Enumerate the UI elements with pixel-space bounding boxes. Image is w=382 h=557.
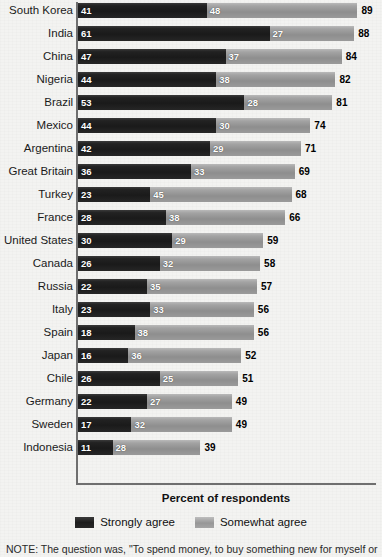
bar-segment-somewhat-agree: 27 xyxy=(270,26,355,41)
bar-segment-strongly-agree: 26 xyxy=(78,371,160,386)
bar-value-strongly-agree: 53 xyxy=(81,95,92,110)
bar-value-strongly-agree: 61 xyxy=(81,26,92,41)
bar-value-somewhat-agree: 45 xyxy=(153,187,164,202)
bar-value-strongly-agree: 41 xyxy=(81,3,92,18)
bar-group: 1732 xyxy=(78,417,232,432)
bar-value-strongly-agree: 42 xyxy=(81,141,92,156)
bar-group: 2345 xyxy=(78,187,292,202)
bar-group: 4430 xyxy=(78,118,310,133)
bar-group: 1636 xyxy=(78,348,241,363)
bar-segment-somewhat-agree: 38 xyxy=(135,325,254,340)
chart-note: NOTE: The question was, "To spend money,… xyxy=(6,543,378,556)
bar-segment-somewhat-agree: 38 xyxy=(166,210,285,225)
category-label: United States xyxy=(0,232,73,249)
bar-value-somewhat-agree: 28 xyxy=(247,95,258,110)
bar-total-label: 81 xyxy=(336,95,347,110)
bar-segment-strongly-agree: 17 xyxy=(78,417,131,432)
bar-segment-somewhat-agree: 37 xyxy=(226,49,342,64)
bar-group: 2632 xyxy=(78,256,260,271)
bar-group: 4438 xyxy=(78,72,335,87)
plot-area: South Korea414889India612788China473784N… xyxy=(0,2,382,462)
bar-value-strongly-agree: 26 xyxy=(81,371,92,386)
bar-total-label: 74 xyxy=(314,118,325,133)
bar-segment-strongly-agree: 22 xyxy=(78,279,147,294)
bar-value-somewhat-agree: 35 xyxy=(150,279,161,294)
bar-row: Great Britain363369 xyxy=(0,163,382,186)
bar-segment-strongly-agree: 30 xyxy=(78,233,172,248)
bar-value-strongly-agree: 36 xyxy=(81,164,92,179)
bar-row: Germany222749 xyxy=(0,393,382,416)
bar-row: United States302959 xyxy=(0,232,382,255)
bar-value-strongly-agree: 44 xyxy=(81,118,92,133)
bar-value-strongly-agree: 18 xyxy=(81,325,92,340)
category-label: India xyxy=(0,25,73,42)
category-label: Japan xyxy=(0,347,73,364)
bar-value-somewhat-agree: 33 xyxy=(153,302,164,317)
category-label: Spain xyxy=(0,324,73,341)
bar-value-somewhat-agree: 32 xyxy=(163,256,174,271)
bar-row: Mexico443074 xyxy=(0,117,382,140)
stacked-bar-chart: South Korea414889India612788China473784N… xyxy=(0,0,382,557)
legend-label-somewhat-agree: Somewhat agree xyxy=(220,516,307,528)
bar-row: Russia223557 xyxy=(0,278,382,301)
bar-group: 3029 xyxy=(78,233,263,248)
bar-group: 5328 xyxy=(78,95,332,110)
bar-row: Nigeria443882 xyxy=(0,71,382,94)
bar-group: 2235 xyxy=(78,279,257,294)
category-label: Russia xyxy=(0,278,73,295)
bar-group: 6127 xyxy=(78,26,354,41)
bar-segment-strongly-agree: 36 xyxy=(78,164,191,179)
bar-row: France283866 xyxy=(0,209,382,232)
bar-total-label: 89 xyxy=(361,3,372,18)
bar-segment-strongly-agree: 44 xyxy=(78,72,216,87)
bar-segment-somewhat-agree: 29 xyxy=(172,233,263,248)
bar-segment-strongly-agree: 23 xyxy=(78,302,150,317)
bar-total-label: 84 xyxy=(346,49,357,64)
bar-value-somewhat-agree: 38 xyxy=(138,325,149,340)
bar-segment-strongly-agree: 16 xyxy=(78,348,128,363)
bar-value-strongly-agree: 22 xyxy=(81,394,92,409)
bar-value-somewhat-agree: 29 xyxy=(175,233,186,248)
bar-row: South Korea414889 xyxy=(0,2,382,25)
bar-value-somewhat-agree: 38 xyxy=(169,210,180,225)
bar-segment-somewhat-agree: 25 xyxy=(160,371,239,386)
bar-value-somewhat-agree: 27 xyxy=(273,26,284,41)
bar-total-label: 71 xyxy=(305,141,316,156)
bar-total-label: 59 xyxy=(267,233,278,248)
bar-segment-somewhat-agree: 33 xyxy=(191,164,295,179)
bar-value-somewhat-agree: 33 xyxy=(194,164,205,179)
category-label: France xyxy=(0,209,73,226)
bar-row: India612788 xyxy=(0,25,382,48)
bar-segment-strongly-agree: 61 xyxy=(78,26,270,41)
bar-segment-strongly-agree: 44 xyxy=(78,118,216,133)
bar-total-label: 52 xyxy=(245,348,256,363)
category-label: Indonesia xyxy=(0,439,73,456)
bar-value-somewhat-agree: 25 xyxy=(163,371,174,386)
bar-segment-strongly-agree: 53 xyxy=(78,95,244,110)
bar-total-label: 49 xyxy=(236,417,247,432)
bar-row: Canada263258 xyxy=(0,255,382,278)
bar-group: 2838 xyxy=(78,210,285,225)
bar-total-label: 56 xyxy=(258,325,269,340)
bar-row: China473784 xyxy=(0,48,382,71)
bar-segment-somewhat-agree: 27 xyxy=(147,394,232,409)
bar-value-somewhat-agree: 32 xyxy=(134,417,145,432)
bar-group: 4229 xyxy=(78,141,301,156)
category-label: Sweden xyxy=(0,416,73,433)
bar-row: Argentina422971 xyxy=(0,140,382,163)
bar-segment-strongly-agree: 26 xyxy=(78,256,160,271)
bar-total-label: 66 xyxy=(289,210,300,225)
bar-value-somewhat-agree: 48 xyxy=(210,3,221,18)
category-label: Brazil xyxy=(0,94,73,111)
bar-value-strongly-agree: 30 xyxy=(81,233,92,248)
bar-segment-somewhat-agree: 28 xyxy=(113,440,201,455)
bar-row: Turkey234568 xyxy=(0,186,382,209)
category-label: Argentina xyxy=(0,140,73,157)
bar-total-label: 69 xyxy=(299,164,310,179)
y-axis-line xyxy=(76,2,78,484)
category-label: South Korea xyxy=(0,2,73,19)
bar-group: 2227 xyxy=(78,394,232,409)
bar-segment-somewhat-agree: 48 xyxy=(207,3,358,18)
bar-segment-strongly-agree: 42 xyxy=(78,141,210,156)
bar-segment-somewhat-agree: 38 xyxy=(216,72,335,87)
